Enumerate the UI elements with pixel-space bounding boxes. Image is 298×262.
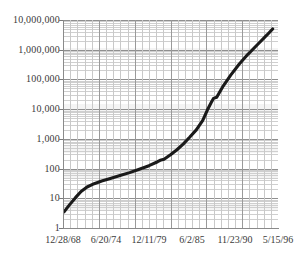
series-line-growth (64, 29, 273, 212)
y-axis-tick-labels: 10,000,0001,000,000100,00010,0001,000100… (0, 0, 60, 262)
x-axis-tick-label: 12/11/79 (131, 234, 166, 246)
y-axis-tick-mark (59, 79, 63, 80)
y-axis-tick-label: 10 (0, 193, 60, 203)
y-axis-tick-mark (59, 169, 63, 170)
y-axis-line (63, 20, 64, 229)
data-series-layer (63, 20, 278, 228)
x-axis-tick-label: 12/28/68 (45, 234, 81, 246)
y-axis-tick-label: 1,000,000 (0, 45, 60, 55)
y-axis-tick-label: 10,000,000 (0, 15, 60, 25)
y-axis-tick-mark (59, 50, 63, 51)
y-axis-tick-label: 1 (0, 223, 60, 233)
y-axis-tick-label: 1,000 (0, 134, 60, 144)
x-axis-tick-label: 6/2/85 (179, 234, 205, 246)
y-axis-tick-mark (59, 20, 63, 21)
plot-area (63, 20, 278, 228)
x-axis-tick-label: 11/23/90 (217, 234, 252, 246)
y-axis-tick-mark (59, 198, 63, 199)
y-axis-tick-mark (59, 228, 63, 229)
x-axis-tick-label: 5/15/96 (263, 234, 294, 246)
y-axis-tick-label: 10,000 (0, 104, 60, 114)
y-axis-tick-label: 100 (0, 164, 60, 174)
y-axis-tick-mark (59, 139, 63, 140)
x-axis-line (63, 228, 279, 229)
x-axis-tick-label: 6/20/74 (91, 234, 122, 246)
log-scale-line-chart: 10,000,0001,000,000100,00010,0001,000100… (0, 0, 298, 262)
x-axis-tick-labels: 12/28/686/20/7412/11/796/2/8511/23/905/1… (0, 234, 298, 250)
y-axis-tick-mark (59, 109, 63, 110)
y-axis-tick-label: 100,000 (0, 74, 60, 84)
